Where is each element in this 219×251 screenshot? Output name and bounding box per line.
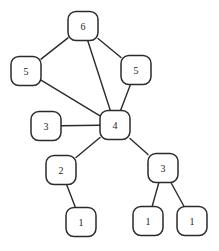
graph-node-n5right[interactable]: 5 <box>121 56 151 85</box>
graph-edge-n2-n1a <box>67 185 76 208</box>
graph-node-n1b[interactable]: 1 <box>133 207 163 236</box>
graph-edge-n3right-n1c <box>171 183 184 207</box>
node-label: 5 <box>134 65 139 76</box>
graph-node-n1a[interactable]: 1 <box>66 208 96 237</box>
graph-svg: 6554323111 <box>0 0 219 251</box>
graph-edge-n4-n2 <box>76 138 100 158</box>
node-layer: 6554323111 <box>11 12 207 237</box>
node-label: 3 <box>161 163 166 174</box>
graph-node-n2[interactable]: 2 <box>46 156 76 185</box>
graph-edge-n6-n4 <box>88 41 111 111</box>
graph-edge-n3left-n4 <box>61 125 100 126</box>
graph-edge-n3right-n1b <box>152 183 159 207</box>
graph-edge-n6-n5right <box>98 38 121 57</box>
graph-node-n3left[interactable]: 3 <box>31 112 61 141</box>
graph-edge-n5left-n4 <box>41 80 100 116</box>
graph-edge-n6-n5left <box>41 38 68 59</box>
graph-node-n5left[interactable]: 5 <box>11 57 41 86</box>
node-label: 5 <box>24 66 29 77</box>
graph-edge-n4-n3right <box>130 138 148 154</box>
node-label: 3 <box>44 121 49 132</box>
graph-node-n3right[interactable]: 3 <box>148 154 178 183</box>
node-label: 2 <box>59 165 64 176</box>
node-label: 4 <box>113 120 118 131</box>
graph-node-n6[interactable]: 6 <box>68 12 98 41</box>
graph-edge-n5right-n4 <box>121 85 131 111</box>
node-label: 6 <box>81 21 86 32</box>
node-label: 1 <box>190 216 195 227</box>
node-label: 1 <box>146 216 151 227</box>
node-label: 1 <box>79 217 84 228</box>
graph-node-n1c[interactable]: 1 <box>177 207 207 236</box>
graph-diagram-canvas: 6554323111 <box>0 0 219 251</box>
graph-node-n4[interactable]: 4 <box>100 111 130 140</box>
